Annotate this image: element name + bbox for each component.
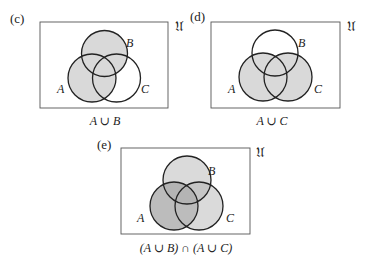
panel-e: (e) 𝔘 A B C (A ∪ B) ∩ (A ∪ C) [97, 137, 265, 255]
set-c-label: C [226, 211, 235, 225]
set-b-label: B [126, 36, 134, 50]
panel-tag: (d) [190, 9, 205, 24]
universe-symbol: 𝔘 [175, 19, 184, 34]
set-a-label: A [136, 211, 145, 225]
set-a-label: A [56, 82, 65, 96]
venn-diagrams: (c) 𝔘 A B C A ∪ B (d) 𝔘 A B C A ∪ C (e) … [0, 0, 375, 270]
set-b-label: B [208, 164, 216, 178]
panel-caption: (A ∪ B) ∩ (A ∪ C) [140, 241, 232, 255]
set-c-label: C [141, 82, 150, 96]
universe-symbol: 𝔘 [347, 19, 356, 34]
panel-tag: (e) [97, 137, 111, 152]
panel-d: (d) 𝔘 A B C A ∪ C [190, 9, 356, 128]
panel-caption: A ∪ C [255, 114, 288, 128]
panel-caption: A ∪ B [89, 114, 121, 128]
set-b-label: B [298, 36, 306, 50]
panel-c: (c) 𝔘 A B C A ∪ B [10, 11, 184, 128]
set-a-label: A [227, 82, 236, 96]
set-c-label: C [314, 82, 323, 96]
universe-symbol: 𝔘 [256, 145, 265, 160]
panel-tag: (c) [10, 11, 24, 26]
